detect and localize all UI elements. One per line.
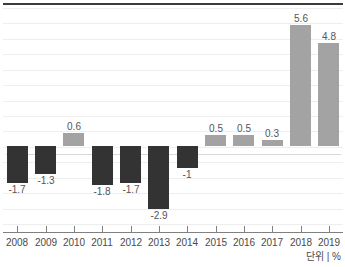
bar xyxy=(205,135,226,146)
bar-value-label: 0.6 xyxy=(54,121,94,132)
bar-value-label: 5.6 xyxy=(281,13,321,24)
bar xyxy=(35,146,56,174)
top-divider-rule xyxy=(3,3,343,5)
bar-value-label: -1.7 xyxy=(111,184,151,195)
bar xyxy=(233,135,254,146)
bar xyxy=(120,146,141,183)
bar-value-label: -1.3 xyxy=(26,175,66,186)
x-axis-tick xyxy=(216,226,217,233)
unit-caption: 단위 | % xyxy=(306,250,341,263)
x-axis-tick xyxy=(17,226,18,233)
bar-value-label: -1 xyxy=(167,169,207,180)
x-axis-tick xyxy=(272,226,273,233)
x-axis-ticks xyxy=(3,226,343,233)
bar xyxy=(7,146,28,183)
bar xyxy=(262,140,283,146)
bar xyxy=(177,146,198,168)
bar-value-label: -2.9 xyxy=(139,210,179,221)
x-axis-tick xyxy=(187,226,188,233)
plot-area: -1.7-1.30.6-1.8-1.7-2.9-10.50.50.35.64.8 xyxy=(3,8,343,224)
x-axis-tick xyxy=(74,226,75,233)
bar-value-label: 0.3 xyxy=(252,128,292,139)
bar xyxy=(318,43,339,147)
x-axis-labels: 2008200920102011201220132014201520162017… xyxy=(3,236,343,250)
bar xyxy=(92,146,113,185)
x-axis-tick xyxy=(46,226,47,233)
x-axis-tick-label: 2019 xyxy=(309,236,345,249)
bar xyxy=(148,146,169,209)
bar xyxy=(63,133,84,146)
x-axis-tick xyxy=(301,226,302,233)
bar-chart: -1.7-1.30.6-1.8-1.7-2.9-10.50.50.35.64.8… xyxy=(0,0,345,267)
bar xyxy=(290,25,311,146)
x-axis-tick xyxy=(329,226,330,233)
gridline xyxy=(3,224,343,225)
x-axis-tick xyxy=(159,226,160,233)
x-axis-tick xyxy=(102,226,103,233)
x-axis-tick xyxy=(244,226,245,233)
bar-value-label: 4.8 xyxy=(309,31,345,42)
bar-series: -1.7-1.30.6-1.8-1.7-2.9-10.50.50.35.64.8 xyxy=(3,8,343,224)
x-axis-tick xyxy=(131,226,132,233)
